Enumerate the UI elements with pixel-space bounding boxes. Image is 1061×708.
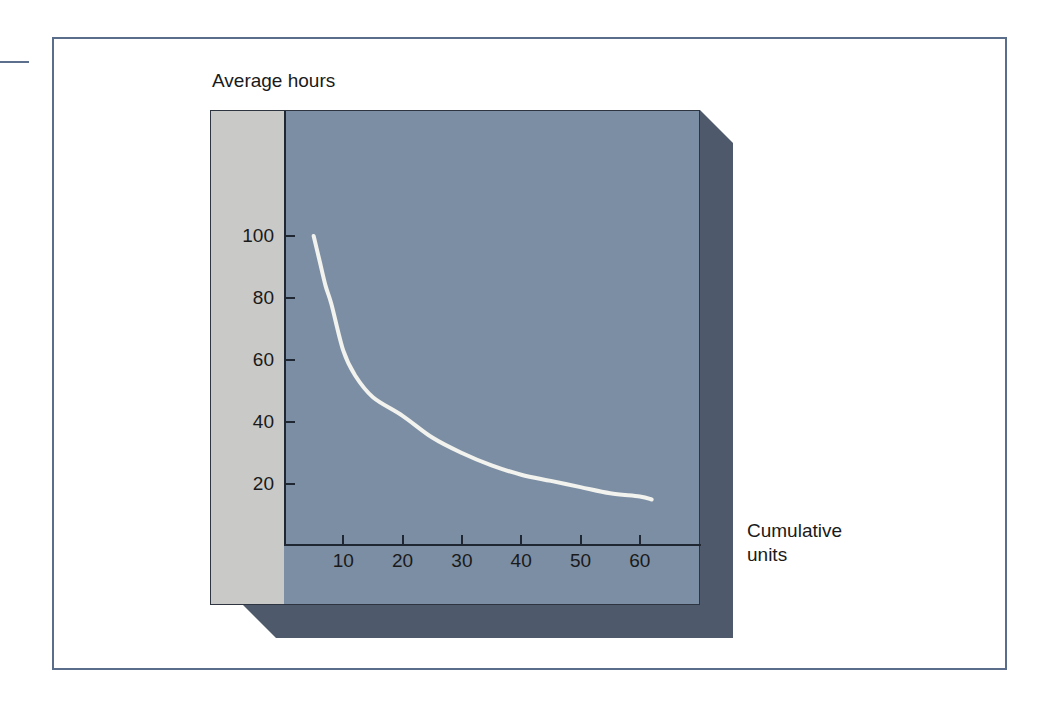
x-axis-title-line1: Cumulative xyxy=(747,519,842,543)
y-tick-label-100: 100 xyxy=(242,226,274,245)
y-axis-title: Average hours xyxy=(212,70,335,92)
x-tick-label-50: 50 xyxy=(561,551,601,570)
x-tick-label-10: 10 xyxy=(323,551,363,570)
x-axis-title: Cumulative units xyxy=(747,519,842,567)
y-tick-label-20: 20 xyxy=(253,474,274,493)
learning-curve xyxy=(284,111,701,546)
curve-line-0 xyxy=(314,236,652,500)
x-axis-title-line2: units xyxy=(747,543,842,567)
chart-figure: 20406080100 102030405060 xyxy=(210,110,733,638)
y-tick-label-80: 80 xyxy=(253,288,274,307)
x-tick-label-40: 40 xyxy=(501,551,541,570)
x-tick-label-60: 60 xyxy=(620,551,660,570)
x-tick-label-30: 30 xyxy=(442,551,482,570)
chart-panel: 20406080100 102030405060 xyxy=(210,110,700,605)
y-tick-label-40: 40 xyxy=(253,412,274,431)
y-tick-label-60: 60 xyxy=(253,350,274,369)
x-tick-label-20: 20 xyxy=(383,551,423,570)
page-left-rule xyxy=(0,61,29,63)
